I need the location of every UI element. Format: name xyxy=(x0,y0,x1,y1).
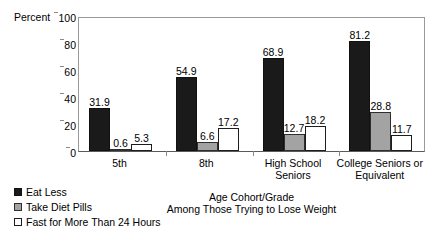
y-axis-tick-label: 100 xyxy=(58,13,76,24)
y-axis-tick-mark xyxy=(60,93,64,94)
x-axis-ticks xyxy=(79,18,424,151)
x-axis-category-label-line: Equivalent xyxy=(328,170,432,182)
x-axis-separator-tick xyxy=(253,151,254,156)
legend-swatch xyxy=(14,188,22,196)
y-axis-tick-label: 80 xyxy=(64,40,76,51)
legend-label: Take Diet Pills xyxy=(26,202,92,213)
x-axis-category-label-line: College Seniors or xyxy=(328,158,432,170)
legend-label: Eat Less xyxy=(26,187,67,198)
x-axis-category-label: College Seniors orEquivalent xyxy=(328,158,432,181)
y-axis-tick-mark xyxy=(60,39,64,40)
y-axis-tick-mark xyxy=(60,66,64,67)
legend-label: Fast for More Than 24 Hours xyxy=(26,217,161,228)
plot-area: 020406080100 31.90.65.354.96.617.268.912… xyxy=(78,17,425,152)
legend-item: Take Diet Pills xyxy=(14,200,161,214)
x-axis-separator-tick xyxy=(166,151,167,156)
y-axis-tick-mark xyxy=(54,12,58,13)
legend-swatch xyxy=(14,218,22,226)
y-axis-tick-label: 40 xyxy=(64,94,76,105)
y-axis-title: Percent xyxy=(14,12,50,23)
bar-chart: Percent 020406080100 31.90.65.354.96.617… xyxy=(0,0,442,233)
y-axis-tick-mark xyxy=(60,120,64,121)
legend-item: Eat Less xyxy=(14,185,161,199)
legend-swatch xyxy=(14,203,22,211)
y-axis-tick-label: 0 xyxy=(70,148,76,159)
y-axis-tick-label: 20 xyxy=(64,121,76,132)
chart-legend: Eat LessTake Diet PillsFast for More Tha… xyxy=(14,185,161,230)
y-axis-tick-label: 60 xyxy=(64,67,76,78)
x-axis-separator-tick xyxy=(339,151,340,156)
y-axis-tick-mark xyxy=(66,147,70,148)
legend-item: Fast for More Than 24 Hours xyxy=(14,215,161,229)
